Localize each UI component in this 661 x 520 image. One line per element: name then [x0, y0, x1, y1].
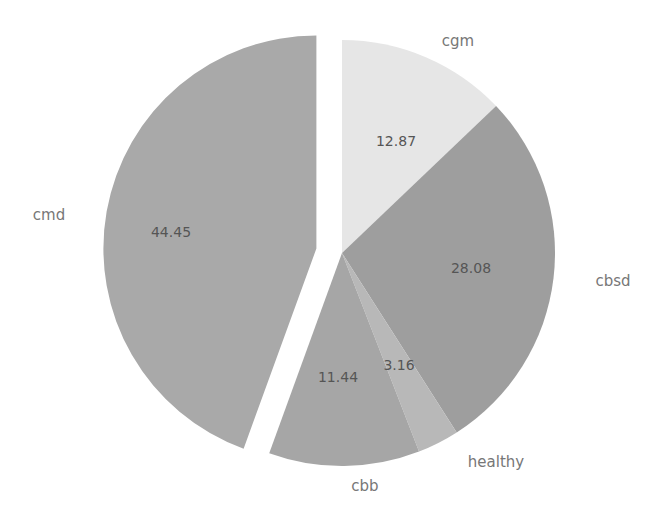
category-label-cbb: cbb	[351, 477, 378, 495]
category-label-healthy: healthy	[468, 453, 524, 471]
value-label-cmd: 44.45	[151, 224, 191, 240]
value-label-cbb: 11.44	[318, 369, 358, 385]
category-label-cmd: cmd	[33, 206, 65, 224]
value-label-healthy: 3.16	[383, 357, 414, 373]
value-label-cgm: 12.87	[376, 133, 416, 149]
pie-slice-cmd	[103, 35, 316, 448]
pie-chart: 12.87 28.08 3.16 11.44 44.45 cgm cbsd he…	[0, 0, 661, 520]
value-label-cbsd: 28.08	[451, 260, 491, 276]
category-label-cgm: cgm	[442, 32, 474, 50]
category-label-cbsd: cbsd	[595, 272, 630, 290]
